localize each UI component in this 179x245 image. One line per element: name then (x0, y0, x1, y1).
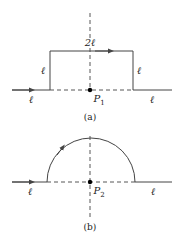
caption-a: (a) (84, 113, 96, 122)
label-left-side: ℓ (41, 66, 45, 76)
point-subscript: 2 (100, 191, 104, 199)
point-letter: P (93, 93, 100, 104)
label-point-p2: P2 (93, 186, 104, 199)
semicircular-loop (47, 138, 135, 182)
point-subscript: 1 (100, 99, 104, 107)
label-right-wire-b: ℓ (151, 187, 155, 197)
figure-a (12, 13, 172, 92)
rectangular-loop (50, 51, 133, 90)
label-point-p1: P1 (93, 94, 104, 107)
label-right-side: ℓ (137, 66, 141, 76)
label-top-length: 2ℓ (84, 38, 97, 48)
point-p1-dot (88, 88, 92, 92)
point-letter: P (93, 185, 100, 196)
label-left-wire-b: ℓ (28, 187, 32, 197)
caption-b: (b) (84, 223, 97, 232)
arc-arrow-b (57, 147, 63, 155)
label-right-wire-a: ℓ (150, 95, 154, 105)
point-p2-dot (88, 180, 92, 184)
label-left-wire-a: ℓ (29, 95, 33, 105)
figure-b (12, 136, 172, 218)
current-loop-diagrams: 2ℓ ℓ ℓ ℓ ℓ P1 (a) ℓ ℓ P2 (b) (0, 0, 179, 245)
